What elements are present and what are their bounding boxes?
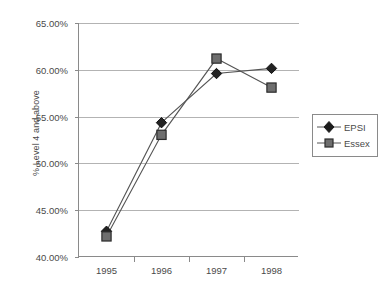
y-axis-tick-label: 60.00% (36, 64, 68, 75)
plot-area: 65.00%60.00%55.00%50.00%45.00%40.00% 199… (78, 23, 298, 257)
series-layer (79, 23, 299, 257)
essex-square-icon (316, 136, 342, 150)
legend-label-epsi: EPSI (344, 122, 366, 133)
x-axis-tick (134, 257, 135, 262)
legend: EPSI Essex (312, 114, 378, 157)
x-axis-tick (189, 257, 190, 262)
legend-item-epsi[interactable]: EPSI (316, 119, 374, 135)
legend-label-essex: Essex (344, 138, 370, 149)
data-point-essex-1995 (102, 232, 111, 241)
epsi-diamond-icon (316, 120, 342, 134)
x-axis-tick-label: 1995 (96, 265, 117, 276)
x-axis-tick-label: 1998 (261, 265, 282, 276)
y-axis-tick-label: 40.00% (36, 252, 68, 263)
line-chart: % Level 4 and above 65.00%60.00%55.00%50… (0, 0, 392, 292)
x-axis-tick-label: 1996 (151, 265, 172, 276)
y-axis-tick-label: 65.00% (36, 18, 68, 29)
y-axis-tick-label: 45.00% (36, 205, 68, 216)
x-axis-tick-label: 1997 (206, 265, 227, 276)
data-point-essex-1996 (157, 130, 166, 139)
data-point-essex-1998 (267, 83, 276, 92)
y-axis-tick-label: 50.00% (36, 158, 68, 169)
data-point-epsi-1998 (266, 63, 276, 73)
y-axis-tick-label: 55.00% (36, 111, 68, 122)
y-axis-title: % Level 4 and above (31, 53, 41, 213)
legend-item-essex[interactable]: Essex (316, 135, 374, 151)
data-point-essex-1997 (212, 54, 221, 63)
series-line-essex (107, 59, 272, 237)
series-line-epsi (107, 68, 272, 231)
y-axis-tick: 40.00% (75, 257, 79, 258)
x-axis-tick (244, 257, 245, 262)
